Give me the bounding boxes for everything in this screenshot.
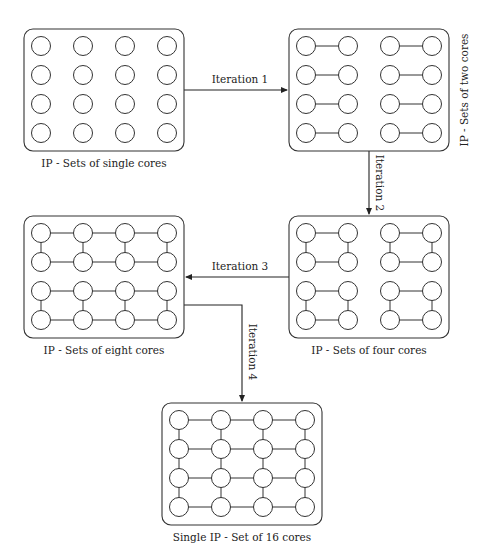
core-node [254,469,273,488]
core-node [297,282,316,301]
core-node [170,411,189,430]
core-node [32,66,51,85]
core-node [381,124,400,143]
core-node [32,311,51,330]
core-node [423,66,442,85]
core-node [74,66,93,85]
core-node [297,124,316,143]
core-node [74,95,93,114]
core-node [297,311,316,330]
core-node [339,37,358,56]
core-node [116,282,135,301]
core-node [381,66,400,85]
iteration-arrow-3: Iteration 3 [186,260,289,277]
core-node [74,124,93,143]
core-node [381,224,400,243]
core-node [381,37,400,56]
core-node [423,253,442,272]
core-node [297,253,316,272]
core-node [297,66,316,85]
core-node [158,311,177,330]
core-node [32,95,51,114]
core-node [381,95,400,114]
core-node [339,253,358,272]
core-node [74,224,93,243]
iteration-diagram: Iteration 1Iteration 2Iteration 3Iterati… [0,0,490,552]
stage-caption: Single IP - Set of 16 cores [173,531,311,543]
stage-caption: IP - Sets of two cores [458,33,470,146]
iteration-label: Iteration 4 [247,324,259,381]
core-node [32,282,51,301]
core-node [212,498,231,517]
stage-caption: IP - Sets of four cores [311,344,427,356]
core-node [158,224,177,243]
core-node [158,95,177,114]
iteration-arrow-1: Iteration 1 [184,73,287,90]
core-node [116,224,135,243]
core-node [116,124,135,143]
core-node [74,253,93,272]
core-node [423,282,442,301]
core-node [296,498,315,517]
core-node [212,440,231,459]
core-node [339,311,358,330]
core-node [158,124,177,143]
core-node [423,124,442,143]
core-node [212,411,231,430]
core-node [116,37,135,56]
core-node [74,282,93,301]
core-node [339,66,358,85]
stage-single: IP - Sets of single cores [24,29,184,169]
core-node [339,282,358,301]
core-node [158,282,177,301]
core-node [158,253,177,272]
core-node [339,224,358,243]
core-node [297,37,316,56]
core-node [32,224,51,243]
iteration-label: Iteration 2 [374,155,386,212]
core-node [212,469,231,488]
core-node [116,95,135,114]
core-node [254,411,273,430]
stage-two: IP - Sets of two cores [289,29,470,151]
core-node [296,469,315,488]
stage-sixteen: Single IP - Set of 16 cores [162,403,322,543]
core-node [339,95,358,114]
core-node [423,95,442,114]
core-node [381,311,400,330]
stage-caption: IP - Sets of single cores [41,157,166,169]
core-node [423,37,442,56]
core-node [381,282,400,301]
core-node [74,311,93,330]
core-node [32,124,51,143]
core-node [116,253,135,272]
core-node [170,440,189,459]
core-node [74,37,93,56]
core-node [170,469,189,488]
arrow-line [184,305,242,401]
core-node [339,124,358,143]
core-node [254,498,273,517]
core-node [423,311,442,330]
iteration-label: Iteration 1 [212,73,269,85]
core-node [116,311,135,330]
core-node [296,411,315,430]
core-node [158,37,177,56]
core-node [297,224,316,243]
iteration-arrow-4: Iteration 4 [184,305,259,401]
core-node [296,440,315,459]
core-node [116,66,135,85]
core-node [170,498,189,517]
iteration-label: Iteration 3 [212,260,269,272]
stage-caption: IP - Sets of eight cores [44,344,165,356]
core-node [32,37,51,56]
stage-four: IP - Sets of four cores [289,216,449,356]
core-node [381,253,400,272]
stages-layer: IP - Sets of single coresIP - Sets of tw… [24,29,470,543]
core-node [297,95,316,114]
core-node [254,440,273,459]
core-node [158,66,177,85]
stage-eight: IP - Sets of eight cores [24,216,184,356]
core-node [423,224,442,243]
core-node [32,253,51,272]
